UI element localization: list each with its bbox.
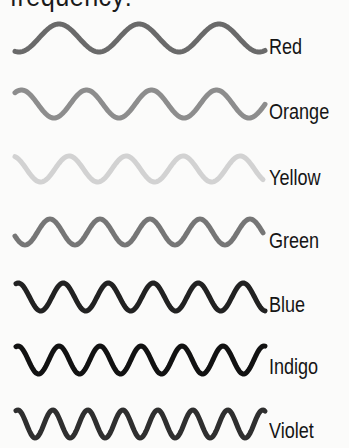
- label-orange: Orange: [269, 100, 329, 124]
- label-red: Red: [269, 35, 302, 59]
- wave-red: [15, 24, 265, 52]
- wave-orange: [15, 90, 265, 118]
- label-indigo: Indigo: [269, 355, 318, 379]
- wave-indigo: [16, 346, 265, 374]
- wave-diagram: [0, 0, 349, 448]
- label-blue: Blue: [269, 293, 305, 317]
- label-green: Green: [269, 229, 319, 253]
- wave-blue: [16, 283, 265, 311]
- wave-yellow: [15, 156, 263, 182]
- label-violet: Violet: [269, 419, 314, 443]
- wave-green: [15, 219, 263, 245]
- wave-violet: [16, 410, 265, 438]
- label-yellow: Yellow: [269, 166, 320, 190]
